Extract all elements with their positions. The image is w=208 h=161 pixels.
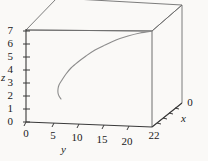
y-axis bbox=[24, 122, 152, 130]
y-tick-label: 20 bbox=[119, 136, 135, 147]
z-axis-title: z bbox=[1, 72, 5, 83]
x-axis-ticks bbox=[157, 108, 179, 124]
y-tick-mark bbox=[127, 126, 129, 130]
y-axis-line bbox=[26, 122, 152, 127]
x-tick-mark bbox=[175, 108, 179, 109]
x-axis-title: x bbox=[181, 113, 186, 124]
x-tick-mark bbox=[157, 123, 161, 124]
y-axis-title: y bbox=[61, 144, 66, 155]
x-axis bbox=[152, 103, 182, 127]
figure-3d-plot: 0 1 2 3 4 5 6 7 z 0 5 10 15 20 y 22 0 x bbox=[0, 0, 208, 161]
z-tick-label: 6 bbox=[1, 38, 13, 49]
z-tick-label: 1 bbox=[1, 103, 13, 114]
box-edge-front-top bbox=[26, 30, 152, 31]
x-tick-label: 0 bbox=[182, 97, 198, 108]
y-tick-label: 10 bbox=[69, 132, 85, 143]
box-front-edges bbox=[26, 30, 152, 127]
x-tick-label: 22 bbox=[146, 130, 162, 141]
y-tick-label: 15 bbox=[94, 134, 110, 145]
x-axis-line bbox=[152, 103, 182, 127]
z-tick-label: 2 bbox=[1, 90, 13, 101]
z-tick-label: 0 bbox=[1, 116, 13, 127]
z-tick-label: 5 bbox=[1, 51, 13, 62]
y-tick-label: 5 bbox=[45, 130, 61, 141]
z-tick-label: 7 bbox=[1, 25, 13, 36]
x-tick-mark bbox=[163, 118, 167, 119]
data-curve-trajectory bbox=[58, 31, 152, 99]
x-tick-mark bbox=[169, 113, 173, 114]
y-tick-label: 0 bbox=[18, 128, 34, 139]
box-top-face-edge bbox=[26, 0, 182, 31]
y-tick-mark bbox=[24, 122, 26, 126]
z-axis bbox=[23, 29, 30, 122]
box-back-edges bbox=[26, 0, 182, 127]
